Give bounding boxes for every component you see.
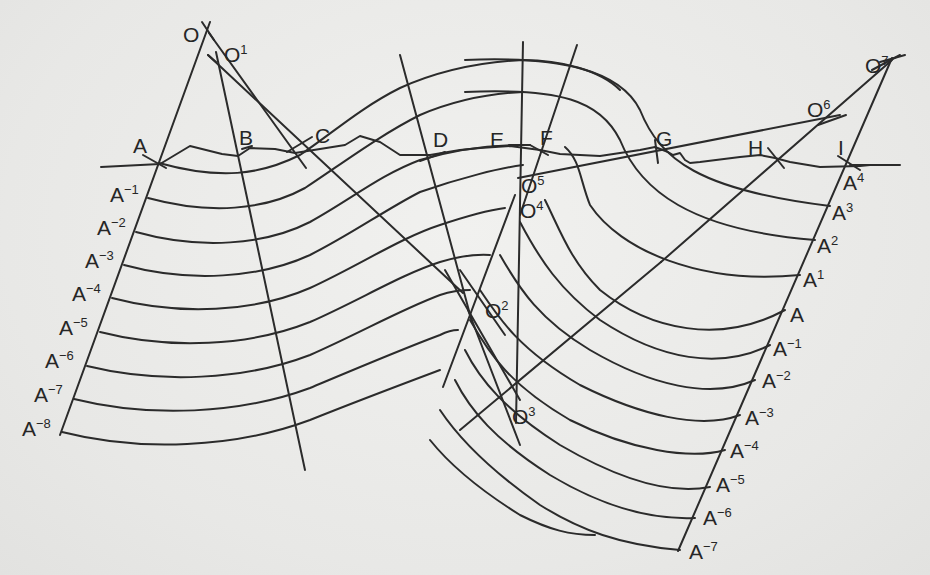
- label-B: B: [239, 126, 253, 149]
- label-H: H: [748, 136, 763, 159]
- radial-line-O-left: [60, 22, 210, 435]
- label-A-2-left: A−2: [97, 215, 126, 239]
- right-scale-labels: A4 A3 A2 A1 A A−1 A−2 A−3 A−4 A−5 A−6 A−…: [689, 170, 864, 563]
- label-E: E: [490, 128, 504, 151]
- label-O2: O2: [485, 298, 509, 322]
- cross-section-diagram: O O1 A B C D E F G H I O5 O4 O2 O3 O6 O7…: [0, 0, 930, 575]
- label-F: F: [540, 126, 553, 149]
- label-A-4-right: A−4: [730, 438, 759, 462]
- label-O5: O5: [521, 173, 545, 197]
- label-A-6-right: A−6: [703, 505, 732, 529]
- label-O: O: [183, 23, 199, 46]
- label-O4: O4: [520, 198, 544, 222]
- label-O1: O1: [224, 42, 248, 66]
- label-A3-right: A3: [832, 200, 853, 224]
- label-A2-right: A2: [817, 233, 838, 257]
- label-A-4-left: A−4: [72, 281, 101, 305]
- label-A-7-right: A−7: [689, 539, 718, 563]
- label-A-2-right: A−2: [762, 368, 791, 392]
- label-A-3-right: A−3: [745, 405, 774, 429]
- radial-line-E: [516, 42, 523, 423]
- right-scale-line: [678, 58, 892, 551]
- label-O3: O3: [512, 404, 536, 428]
- label-A-3-left: A−3: [85, 248, 114, 272]
- label-A1-right: A1: [803, 267, 824, 291]
- label-A4-right: A4: [843, 170, 864, 194]
- radial-line-H-diag: [460, 262, 661, 430]
- label-I: I: [838, 136, 844, 159]
- label-A-8-left: A−8: [22, 416, 51, 440]
- radial-line-O7-H: [661, 60, 892, 262]
- label-C: C: [315, 124, 330, 147]
- radial-line-D: [400, 55, 472, 322]
- label-A-right: A: [790, 303, 804, 326]
- label-A-7-left: A−7: [34, 382, 63, 406]
- label-A-1-left: A−1: [110, 182, 139, 206]
- label-A: A: [133, 134, 147, 157]
- label-A-1-right: A−1: [773, 336, 802, 360]
- radial-lines: [60, 22, 892, 551]
- label-A-5-left: A−5: [59, 315, 88, 339]
- radial-line-O1-C: [208, 55, 463, 293]
- label-D: D: [433, 128, 448, 151]
- label-G: G: [656, 127, 672, 150]
- tick-O1: [208, 55, 216, 62]
- label-A-5-right: A−5: [716, 472, 745, 496]
- label-A-6-left: A−6: [45, 348, 74, 372]
